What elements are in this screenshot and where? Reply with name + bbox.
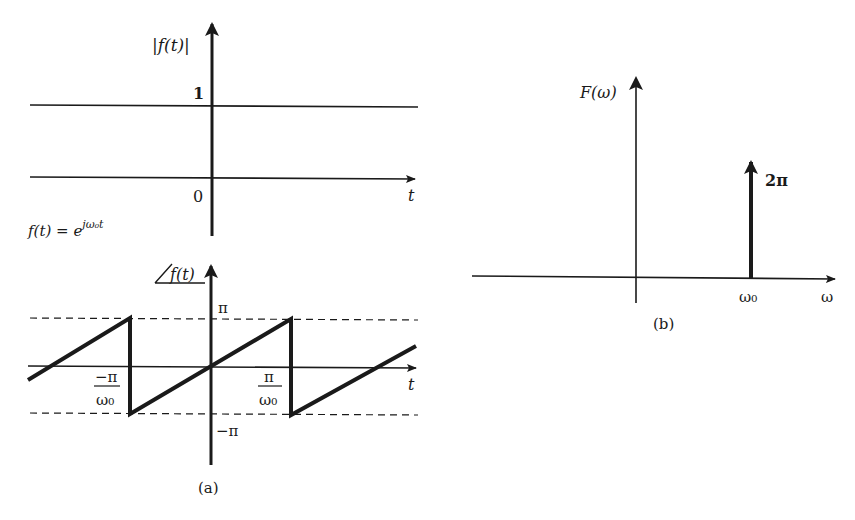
pi-dashed-line xyxy=(30,318,418,320)
phase-xlabel: t xyxy=(408,375,415,394)
spectrum-ylabel: F(ω) xyxy=(579,83,617,102)
magnitude-plot: |f(t)| 1 0 t f(t) = ejω₀t xyxy=(27,24,418,240)
left-tick-denominator: ω₀ xyxy=(96,391,114,409)
omega0-label: ω₀ xyxy=(739,288,757,306)
fourier-transform-figure: |f(t)| 1 0 t f(t) = ejω₀t f(t) π −π t −π… xyxy=(0,0,855,520)
spectrum-plot: F(ω) 2π ω₀ ω xyxy=(472,78,835,306)
phase-plot: f(t) π −π t −π ω₀ π ω₀ xyxy=(28,264,418,465)
magnitude-ylabel: |f(t)| xyxy=(152,35,190,55)
magnitude-time-axis xyxy=(30,177,415,179)
magnitude-level-label: 1 xyxy=(193,84,204,103)
caption-b: (b) xyxy=(653,315,674,333)
pi-label: π xyxy=(218,299,228,317)
neg-pi-label: −π xyxy=(216,422,239,440)
spectrum-xlabel: ω xyxy=(821,288,833,306)
right-tick-denominator: ω₀ xyxy=(259,391,277,409)
left-tick-numerator: −π xyxy=(95,368,118,386)
signal-formula: f(t) = ejω₀t xyxy=(27,218,104,240)
caption-a: (a) xyxy=(198,479,219,497)
neg-pi-dashed-line xyxy=(30,413,418,415)
magnitude-constant-line xyxy=(30,105,418,107)
phase-time-axis xyxy=(28,366,416,368)
origin-label: 0 xyxy=(193,187,203,206)
phase-ylabel: f(t) xyxy=(169,265,195,284)
spectrum-frequency-axis xyxy=(472,276,835,279)
magnitude-xlabel: t xyxy=(408,186,415,205)
impulse-weight-label: 2π xyxy=(765,171,788,190)
right-tick-numerator: π xyxy=(264,368,274,386)
